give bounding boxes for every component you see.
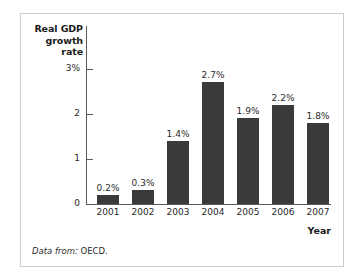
y-tick-label-3: 3% [40, 64, 80, 73]
x-tick-label-2007: 2007 [301, 207, 335, 217]
x-tick-label-2001: 2001 [91, 207, 125, 217]
bar-2005[interactable] [237, 118, 259, 204]
x-tick-label-2006: 2006 [266, 207, 300, 217]
bars-layer: 0.2% 0.3% 1.4% 2.7% 1.9% 2.2% [86, 14, 331, 204]
bar-group-2004: 2.7% [197, 14, 229, 204]
bar-2004[interactable] [202, 82, 224, 204]
bar-group-2007: 1.8% [302, 14, 334, 204]
x-tick-label-2003: 2003 [161, 207, 195, 217]
y-tick-label-0: 0 [40, 199, 80, 208]
bar-value-2001: 0.2% [88, 183, 128, 193]
y-axis-title-line-1: Real GDP [23, 23, 83, 35]
bar-group-2002: 0.3% [127, 14, 159, 204]
bar-2006[interactable] [272, 105, 294, 204]
bar-value-2006: 2.2% [263, 93, 303, 103]
chart-plot-area: Real GDP growth rate 0 1 2 3% 0.2% 0.3% [21, 14, 343, 266]
x-axis-title: Year [307, 225, 331, 236]
bar-group-2001: 0.2% [92, 14, 124, 204]
source-note: Data from: OECD. [32, 246, 108, 256]
bar-value-2002: 0.3% [123, 178, 163, 188]
bar-2003[interactable] [167, 141, 189, 204]
bar-2001[interactable] [97, 195, 119, 204]
x-tick-label-2002: 2002 [126, 207, 160, 217]
y-tick-label-1: 1 [40, 154, 80, 163]
bar-group-2003: 1.4% [162, 14, 194, 204]
bar-group-2006: 2.2% [267, 14, 299, 204]
y-axis-title: Real GDP growth rate [23, 23, 83, 58]
bar-2007[interactable] [307, 123, 329, 204]
bar-value-2003: 1.4% [158, 129, 198, 139]
source-note-value: OECD. [81, 246, 108, 256]
source-note-label: Data from: [32, 246, 78, 256]
x-axis-line [86, 204, 331, 205]
y-tick-label-2: 2 [40, 109, 80, 118]
bar-value-2005: 1.9% [228, 106, 268, 116]
bar-2002[interactable] [132, 190, 154, 204]
figure-frame: Real GDP growth rate 0 1 2 3% 0.2% 0.3% [20, 13, 344, 267]
bar-value-2004: 2.7% [193, 70, 233, 80]
bar-value-2007: 1.8% [298, 111, 338, 121]
y-axis-title-line-2: growth rate [23, 35, 83, 58]
bar-group-2005: 1.9% [232, 14, 264, 204]
x-tick-label-2004: 2004 [196, 207, 230, 217]
y-tick-mark-0 [87, 204, 93, 205]
x-tick-label-2005: 2005 [231, 207, 265, 217]
